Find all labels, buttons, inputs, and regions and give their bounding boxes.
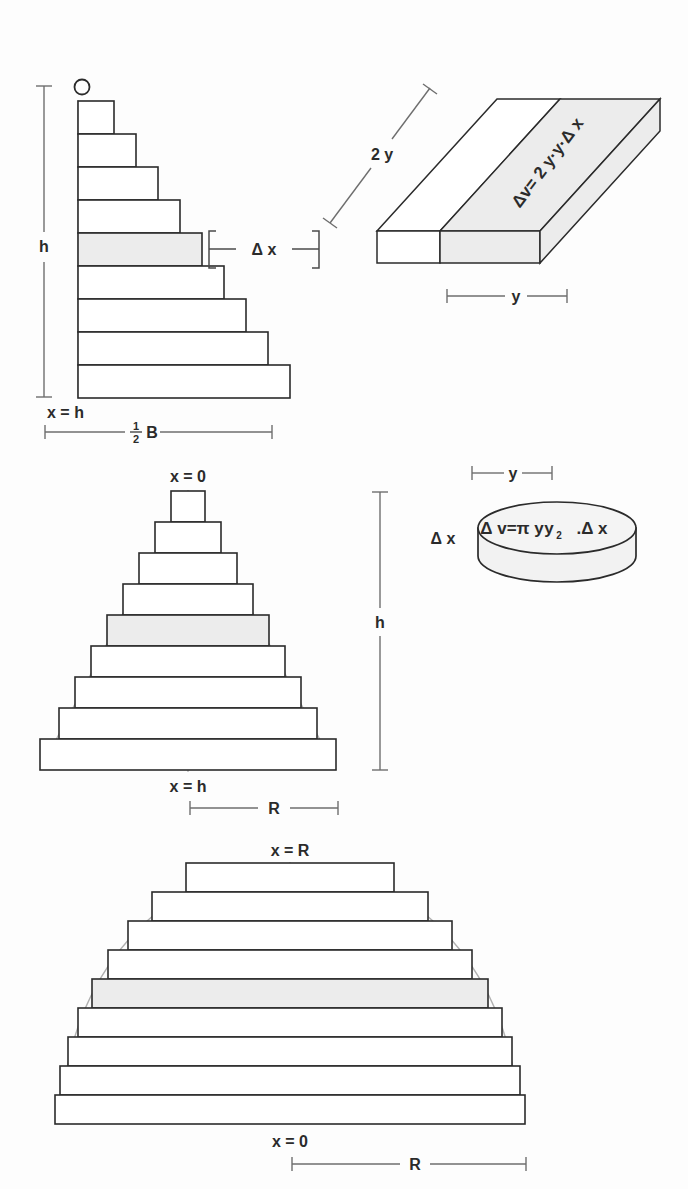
hemisphere-top-label: x = R bbox=[271, 842, 310, 859]
disc-formula-exponent: 2 bbox=[556, 530, 562, 541]
cone-step-shaded bbox=[107, 615, 269, 646]
pyramid-step bbox=[78, 332, 268, 365]
slab-short-edge-label: y bbox=[512, 288, 521, 305]
pyramid-step-shaded bbox=[78, 233, 202, 266]
slab-front-face-shaded bbox=[440, 231, 540, 263]
cone-step bbox=[40, 739, 336, 770]
hemisphere-step bbox=[55, 1095, 525, 1124]
hemisphere-step bbox=[152, 892, 428, 921]
cone-step bbox=[123, 584, 253, 615]
pyramid-step bbox=[78, 299, 246, 332]
pyramid-step bbox=[78, 365, 290, 398]
cone-radius-dimension bbox=[190, 801, 338, 815]
cone-height-dimension bbox=[372, 492, 388, 770]
cone-step bbox=[59, 708, 317, 739]
cone-radius-label: R bbox=[268, 800, 280, 817]
disc-solid bbox=[478, 502, 636, 582]
pyramid-height-label: h bbox=[39, 238, 49, 255]
pyramid-step bbox=[78, 167, 158, 200]
disc-formula-head: Δ v=π y bbox=[480, 519, 544, 538]
disc-formula-tail: .Δ x bbox=[576, 519, 608, 538]
diagram-sheet: h Δ x x = h 1 2 B bbox=[0, 0, 688, 1189]
pyramid-step bbox=[78, 200, 180, 233]
hemisphere-radius-label: R bbox=[409, 1156, 421, 1173]
slab-thickness-label: Δ x bbox=[252, 241, 277, 258]
fraction-denominator: 2 bbox=[133, 433, 139, 445]
hemisphere-step bbox=[78, 1008, 502, 1037]
cone-step bbox=[91, 646, 285, 677]
hemisphere-step-stack bbox=[55, 863, 525, 1124]
slab-long-edge-label: 2 y bbox=[371, 146, 393, 163]
hemisphere-base-label: x = 0 bbox=[272, 1133, 308, 1150]
half-base-fraction: 1 2 B bbox=[130, 420, 158, 445]
cone-step-stack bbox=[40, 491, 336, 770]
apex-marker-O bbox=[75, 80, 90, 95]
panel-pyramid-and-slab: h Δ x x = h 1 2 B bbox=[0, 0, 688, 455]
pyramid-step bbox=[78, 266, 224, 299]
disc-formula-var: y bbox=[544, 519, 554, 538]
slab-short-edge-dimension bbox=[447, 289, 567, 303]
hemisphere-step bbox=[60, 1066, 520, 1095]
panel-cone-and-disc: x = 0 x = h h R y Δ x bbox=[0, 460, 688, 820]
pyramid-base-width-dimension bbox=[45, 425, 272, 439]
panel-hemisphere: x = R x = 0 R bbox=[0, 834, 688, 1189]
base-width-label: B bbox=[146, 424, 158, 441]
pyramid-base-label: x = h bbox=[47, 404, 84, 421]
cone-step bbox=[171, 491, 205, 522]
cone-step bbox=[155, 522, 221, 553]
pyramid-step bbox=[78, 134, 136, 167]
pyramid-step bbox=[78, 101, 114, 134]
hemisphere-step bbox=[186, 863, 394, 892]
cone-step bbox=[139, 553, 237, 584]
hemisphere-step bbox=[128, 921, 452, 950]
slab-front-face-plain bbox=[377, 231, 440, 263]
disc-thickness-label: Δ x bbox=[431, 530, 456, 547]
fraction-numerator: 1 bbox=[133, 420, 139, 432]
disc-volume-formula: Δ v=π y y 2 .Δ x bbox=[480, 519, 608, 541]
cone-height-label: h bbox=[375, 614, 385, 631]
cone-apex-label: x = 0 bbox=[170, 468, 206, 485]
cone-step bbox=[75, 677, 301, 708]
hemisphere-step-shaded bbox=[92, 979, 488, 1008]
hemisphere-step bbox=[108, 950, 472, 979]
hemisphere-step bbox=[68, 1037, 512, 1066]
cone-base-label: x = h bbox=[170, 778, 207, 795]
disc-radius-label: y bbox=[509, 465, 518, 482]
slab-solid bbox=[377, 99, 660, 263]
